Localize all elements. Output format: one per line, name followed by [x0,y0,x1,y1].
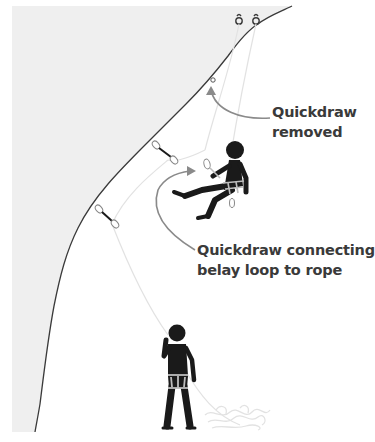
arrow-connecting-head [187,166,196,176]
annotation-line: Quickdraw connecting [197,240,375,260]
belayer-standing [163,325,195,429]
annotation-line: belay loop to rope [197,260,375,280]
annotation-line: removed [272,122,357,142]
arrow-removed [211,90,270,118]
annotation-line: Quickdraw [272,102,357,122]
quickdraw-upper [151,140,179,166]
annotation-quickdraw-removed: Quickdraw removed [272,102,357,142]
removed-quickdraw-bolt [211,78,215,82]
arrow-connecting [156,171,195,250]
rock-wall [12,6,292,432]
arrow-removed-head [206,86,216,95]
annotation-quickdraw-connecting: Quickdraw connecting belay loop to rope [197,240,375,280]
climber-lowering [174,141,246,218]
